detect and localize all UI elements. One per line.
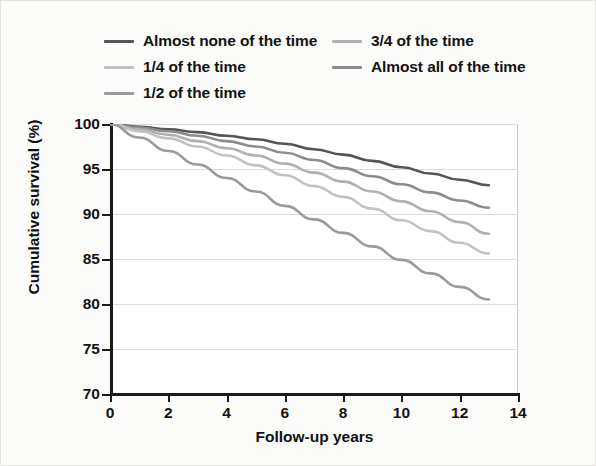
y-tick-label: 90 bbox=[54, 205, 100, 223]
curve-almost-all-of-the-time bbox=[110, 124, 489, 208]
y-tick-label: 85 bbox=[54, 250, 100, 268]
y-tick-label: 75 bbox=[54, 340, 100, 358]
y-tick-label: 70 bbox=[54, 385, 100, 403]
survival-chart-figure: Almost none of the time 1/4 of the time … bbox=[0, 0, 596, 466]
y-tick-label: 100 bbox=[54, 115, 100, 133]
x-axis-title: Follow-up years bbox=[110, 428, 519, 446]
plot-area: 707580859095100 02468101214 Follow-up ye… bbox=[0, 0, 596, 466]
x-tick-label: 10 bbox=[381, 404, 421, 422]
x-tick bbox=[227, 393, 229, 402]
survival-curves bbox=[110, 124, 518, 394]
x-tick-label: 2 bbox=[148, 404, 188, 422]
y-tick-label: 95 bbox=[54, 160, 100, 178]
x-tick bbox=[110, 393, 112, 402]
curve-1-4-of-the-time bbox=[110, 124, 489, 254]
y-tick-label: 80 bbox=[54, 295, 100, 313]
x-tick bbox=[460, 393, 462, 402]
y-axis-title: Cumulative survival (%) bbox=[25, 117, 43, 297]
x-tick-label: 6 bbox=[265, 404, 305, 422]
x-tick-label: 14 bbox=[498, 404, 538, 422]
x-tick bbox=[285, 393, 287, 402]
x-tick bbox=[518, 393, 520, 402]
x-tick bbox=[168, 393, 170, 402]
curve-almost-none-of-the-time bbox=[110, 124, 489, 185]
x-tick-label: 0 bbox=[90, 404, 130, 422]
x-tick-label: 12 bbox=[440, 404, 480, 422]
curve-3-4-of-the-time bbox=[110, 124, 489, 234]
x-tick bbox=[343, 393, 345, 402]
x-tick-label: 4 bbox=[207, 404, 247, 422]
x-tick bbox=[401, 393, 403, 402]
x-tick-label: 8 bbox=[323, 404, 363, 422]
